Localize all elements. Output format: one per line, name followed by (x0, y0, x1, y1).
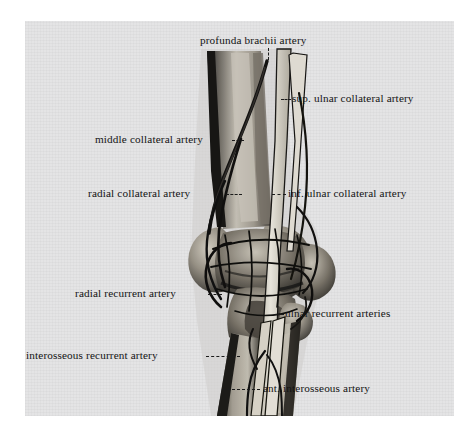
label-ulnar-recurrent-arteries: ulnar recurrent arteries (285, 308, 390, 319)
label-middle-collateral-artery: middle collateral artery (95, 134, 203, 145)
leader-radial-collateral-artery (226, 194, 242, 195)
leader-ulnar-recurrent-arteries (274, 314, 284, 315)
leader-radial-recurrent-artery (208, 294, 222, 295)
label-radial-recurrent-artery: radial recurrent artery (75, 288, 176, 299)
label-interosseous-recurrent-artery: interosseous recurrent artery (26, 350, 158, 361)
label-ant-interosseous-artery: ant. interosseous artery (263, 383, 370, 394)
leader-profunda-brachii-artery (268, 48, 269, 60)
leader-middle-collateral-artery (232, 140, 244, 141)
label-profunda-brachii-artery: profunda brachii artery (200, 35, 307, 46)
label-radial-collateral-artery: radial collateral artery (88, 188, 190, 199)
label-sup-ulnar-collateral-artery: sup. ulnar collateral artery (292, 93, 414, 104)
anatomical-plate: profunda brachii artery sup. ulnar colla… (0, 0, 456, 433)
leader-interosseous-recurrent-artery (206, 356, 240, 357)
leader-ant-interosseous-artery (222, 389, 260, 390)
leader-inf-ulnar-collateral-artery (272, 194, 286, 195)
label-inf-ulnar-collateral-artery: inf. ulnar collateral artery (288, 188, 407, 199)
leader-sup-ulnar-collateral-artery (281, 99, 291, 100)
